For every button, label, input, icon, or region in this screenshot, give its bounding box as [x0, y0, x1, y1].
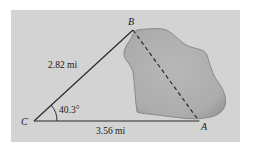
- vertex-label-a: A: [200, 121, 208, 132]
- triangle-diagram: B C A 2.82 mi 3.56 mi 40.3°: [0, 0, 254, 152]
- angle-label: 40.3°: [59, 105, 80, 115]
- vertex-label-b: B: [128, 16, 134, 27]
- vertex-label-c: C: [21, 116, 28, 127]
- side-label-ca: 3.56 mi: [96, 126, 125, 136]
- side-label-cb: 2.82 mi: [48, 60, 77, 70]
